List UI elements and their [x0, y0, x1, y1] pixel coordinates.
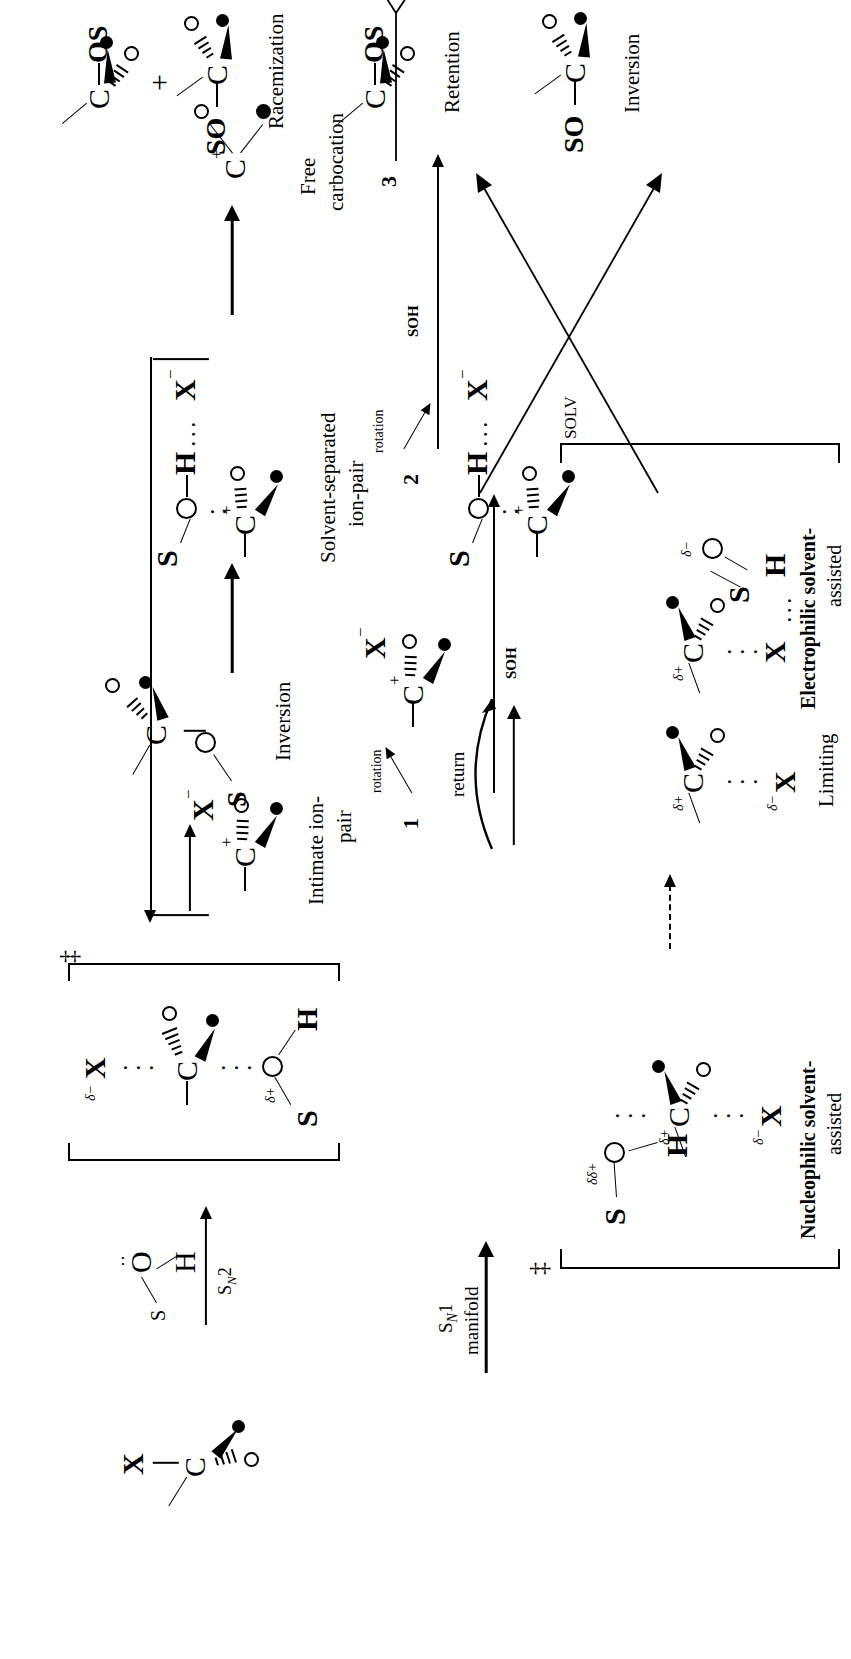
sn1-manifold-label-line1: SN1 [436, 1304, 460, 1333]
ret-wedge-ball [376, 36, 389, 49]
nuc-caption-line1: Nucleophilic solvent- [798, 1061, 818, 1239]
elec-bond-o-h [724, 556, 747, 570]
inv-caption: Inversion [622, 34, 643, 113]
ret-wedge-bond [378, 49, 392, 84]
elec-caption-line1: Electrophilic solvent- [798, 528, 818, 709]
inv-atom-so: SO [560, 116, 588, 153]
ip2-atom-x: X [170, 379, 200, 401]
lim-bond-c-methyl [688, 793, 700, 824]
return-arrow-label: return [448, 752, 467, 797]
rac-bottom-bond-c-methyl [176, 76, 203, 96]
ts-atom-h: H [292, 1008, 322, 1031]
ts-substituent-o-open [162, 1006, 177, 1021]
sn2-arrow-group: S O ·· H SN2 [120, 1179, 290, 1329]
bond-c-x [153, 1462, 179, 1464]
nuc-atom-c: C [664, 1107, 694, 1127]
bracket-right [68, 963, 340, 981]
nuc-x-delta: δ− [752, 1129, 766, 1145]
transition-state-types-box: ‡ SOLV S δδ+ H ... C δ+ [560, 419, 850, 1269]
product-inversion: SO C Inversion [556, 0, 756, 153]
rot1-wedge-ball [438, 638, 451, 651]
product-bond-c-methyl [132, 745, 150, 775]
ip2-wedge-bond [255, 481, 283, 516]
rot2-dotted-c-o: .. [492, 506, 516, 516]
elec-atom-o-big [702, 538, 723, 559]
elec-o-delta: δ− [680, 541, 694, 557]
elec-dotted-x-h: ... [770, 595, 796, 624]
nuc-o-delta: δδ+ [586, 1163, 600, 1185]
rot2-atom-s: S [444, 550, 474, 567]
nuc-wedge-bond [659, 1069, 682, 1105]
elec-atom-x: X [760, 641, 790, 663]
nuc-caption-line2: assisted [824, 1093, 844, 1155]
ts-bond-c-methyl [186, 1081, 188, 1105]
ret-bond-c-os [374, 63, 376, 85]
ip1-substituent-o-open [234, 798, 249, 813]
double-dagger-charge: ‡ [56, 950, 82, 963]
atom-x: X [118, 1453, 148, 1475]
ip1-atom-c: C [230, 847, 260, 867]
nuc-wedge-ball [652, 1060, 665, 1073]
soh-label-2: SOH [406, 305, 421, 337]
nuc-bond-s-o [613, 1161, 617, 1197]
rot2-bond-methyl [536, 533, 538, 557]
ip2-atom-c: C [230, 515, 260, 535]
atom-carbon: C [180, 1457, 210, 1477]
inv-wedge-ball [574, 12, 587, 25]
lim-atom-c: C [678, 773, 708, 793]
ip2-atom-h: H [170, 452, 200, 475]
ip3-atom-c: C [220, 159, 250, 179]
ip1-atom-x: X [188, 799, 218, 821]
rot2-x-charge: − [454, 369, 471, 379]
inv-wedge-bond [578, 23, 592, 58]
sn2-arrow-label: SN2 [216, 1267, 238, 1295]
crossing-arrows [470, 139, 670, 499]
sn1-label-n: N [445, 1313, 460, 1322]
rac-top-substituent-o-open [124, 46, 139, 61]
manifold-return-arrowhead [144, 910, 156, 923]
sn2-substrate: C X [120, 1339, 290, 1539]
lim-caption: Limiting [816, 734, 837, 808]
ip2-atom-s: S [152, 550, 182, 567]
lone-pair-dots: ·· [114, 1255, 132, 1267]
rac-bottom-wedge-ball [216, 14, 229, 27]
ts-bond-o-h [278, 1030, 296, 1056]
rotation-label-1: rotation [370, 749, 384, 793]
rotation-label-2: rotation [372, 409, 386, 453]
reagent-atom-s: S [148, 1310, 168, 1321]
lim-c-delta: δ+ [672, 795, 686, 811]
nuc-bond-o-h [628, 1142, 657, 1152]
bracket-left [68, 1143, 340, 1161]
wedge-terminal-ball [232, 1420, 245, 1433]
inv-atom-c: C [560, 63, 590, 83]
ion-pair-intimate: C + X − Intimate ion- pair [180, 689, 380, 899]
elec-wedge-bond [673, 605, 696, 641]
ip1-c-charge: + [218, 837, 235, 847]
nuc-atom-x: X [756, 1105, 786, 1127]
ip2-bond-s-o [180, 519, 191, 544]
nuc-c-delta: δ+ [658, 1129, 672, 1145]
product-substituent-o-open [105, 678, 120, 693]
rotation-arrow-2 [404, 401, 432, 449]
rac-top-bond-c-os [98, 63, 100, 85]
elec-caption-line2: assisted [824, 545, 844, 607]
ip1-caption-line1: Intimate ion- [306, 796, 327, 905]
inv-substituent-o-open [542, 14, 557, 29]
elec-bond-s-o [710, 570, 741, 587]
inv-bond-so-c [574, 81, 576, 105]
lim-substituent-o-open [710, 728, 725, 743]
sn2-label-s: S [215, 1285, 235, 1295]
ip3-caption-line1: Free [298, 158, 319, 195]
nuc-atom-o-big [604, 1142, 625, 1163]
lim-x-delta: δ− [766, 795, 780, 811]
rac-top-atom-c: C [84, 89, 114, 109]
ip2-bond-o-h [186, 475, 188, 497]
ret-atom-c: C [360, 89, 390, 109]
ip1-bond-methyl [244, 867, 246, 891]
ts-atom-c: C [172, 1061, 202, 1081]
soh-label-1: SOH [504, 647, 519, 679]
branch-2-number: 2 [400, 474, 422, 485]
ip2-atom-o [176, 498, 197, 519]
rac-caption: Racemization [266, 14, 287, 129]
elec-atom-c: C [678, 643, 708, 663]
